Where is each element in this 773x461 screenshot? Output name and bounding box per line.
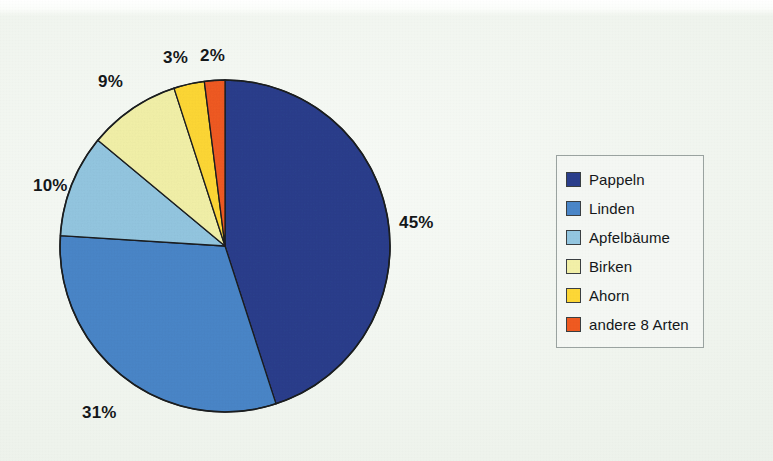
legend-swatch-icon <box>566 288 581 303</box>
legend-item-andere-8-arten[interactable]: andere 8 Arten <box>566 310 703 339</box>
slice-label-pappeln: 45% <box>399 213 434 233</box>
chart-page: 45% 31% 10% 9% 3% 2% Pappeln Linden Apfe… <box>0 0 773 461</box>
legend-label: Apfelbäume <box>589 230 670 245</box>
legend-swatch-icon <box>566 230 581 245</box>
legend-label: Birken <box>589 259 632 274</box>
slice-label-linden: 31% <box>82 403 117 423</box>
pie-chart-svg <box>0 0 460 461</box>
legend-swatch-icon <box>566 201 581 216</box>
pie-chart <box>0 0 460 461</box>
legend-swatch-icon <box>566 172 581 187</box>
slice-label-apfelbaeume: 10% <box>33 176 68 196</box>
legend-label: andere 8 Arten <box>589 317 689 332</box>
legend-label: Ahorn <box>589 288 630 303</box>
chart-legend: Pappeln Linden Apfelbäume Birken Ahorn a… <box>556 155 704 348</box>
slice-label-birken: 9% <box>98 72 123 92</box>
legend-label: Pappeln <box>589 172 645 187</box>
legend-item-linden[interactable]: Linden <box>566 194 703 223</box>
legend-item-pappeln[interactable]: Pappeln <box>566 165 703 194</box>
legend-item-birken[interactable]: Birken <box>566 252 703 281</box>
legend-label: Linden <box>589 201 635 216</box>
slice-label-ahorn: 3% <box>163 48 188 68</box>
slice-label-andere: 2% <box>200 46 225 66</box>
legend-item-apfelbaeume[interactable]: Apfelbäume <box>566 223 703 252</box>
legend-item-ahorn[interactable]: Ahorn <box>566 281 703 310</box>
pie-slice-group <box>60 80 390 412</box>
legend-swatch-icon <box>566 259 581 274</box>
legend-swatch-icon <box>566 317 581 332</box>
